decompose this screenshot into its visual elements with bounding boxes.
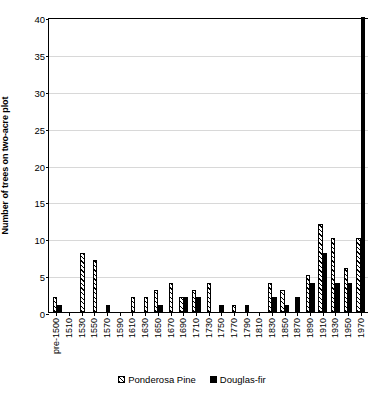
x-axis-tick: 1850	[278, 316, 291, 368]
bar-douglas-fir	[196, 297, 200, 312]
x-axis-tick-label: 1910	[318, 318, 327, 338]
bar-douglas-fir	[361, 17, 365, 312]
bar-ponderosa-pine	[207, 283, 211, 313]
x-axis-tick-mark	[171, 313, 172, 316]
x-axis-tick-label: 1730	[204, 318, 213, 338]
y-axis-tick-label: 25	[1, 124, 45, 135]
chart-legend: Ponderosa PineDouglas-fir	[0, 374, 384, 385]
x-axis-tick-label: 1510	[65, 318, 74, 338]
x-axis-tick: 1670	[164, 316, 177, 368]
y-axis-tick-label: 20	[1, 161, 45, 172]
bar-ponderosa-pine	[80, 253, 84, 312]
legend-label: Douglas-fir	[220, 374, 266, 385]
x-axis-tick-mark	[348, 313, 349, 316]
x-axis-tick-mark	[183, 313, 184, 316]
x-axis-tick: 1890	[304, 316, 317, 368]
x-axis-tick-label: 1930	[331, 318, 340, 338]
y-axis-tick-label: 35	[1, 50, 45, 61]
bar-category-group	[51, 19, 64, 312]
x-axis-tick: 1750	[215, 316, 228, 368]
bar-douglas-fir	[106, 305, 110, 312]
x-axis-tick-mark	[272, 313, 273, 316]
x-axis-tick-label: 1570	[103, 318, 112, 338]
x-axis-tick-mark	[56, 313, 57, 316]
bar-category-group	[329, 19, 342, 312]
bar-category-group	[279, 19, 292, 312]
bar-category-group	[228, 19, 241, 312]
x-axis-tick: 1730	[202, 316, 215, 368]
x-axis-tick-mark	[94, 313, 95, 316]
x-axis-tick-mark	[196, 313, 197, 316]
x-axis-tick: 1530	[75, 316, 88, 368]
bar-category-group	[64, 19, 77, 312]
x-axis-tick-mark	[310, 313, 311, 316]
x-axis-tick: 1590	[113, 316, 126, 368]
x-axis-tick: 1770	[228, 316, 241, 368]
x-axis-tick-label: 1550	[90, 318, 99, 338]
bar-category-group	[266, 19, 279, 312]
x-axis-tick-label: 1610	[128, 318, 137, 338]
x-axis-tick: 1570	[101, 316, 114, 368]
bar-category-group	[127, 19, 140, 312]
bar-ponderosa-pine	[93, 260, 97, 312]
x-axis-tick: 1830	[266, 316, 279, 368]
x-axis-tick-label: 1710	[191, 318, 200, 338]
bar-douglas-fir	[285, 305, 289, 312]
x-axis-tick-mark	[132, 313, 133, 316]
x-axis-tick: pre-1500	[50, 316, 63, 368]
x-axis-tick: 1550	[88, 316, 101, 368]
x-axis-tick-mark	[361, 313, 362, 316]
x-axis-tick: 1790	[240, 316, 253, 368]
solid-black-swatch	[210, 376, 217, 383]
bar-douglas-fir	[348, 283, 352, 313]
bar-category-group	[76, 19, 89, 312]
bar-ponderosa-pine	[232, 305, 236, 312]
bar-chart: Number of trees on two-acre plot 0510152…	[0, 0, 384, 397]
x-axis-tick-mark	[145, 313, 146, 316]
x-axis-tick-mark	[247, 313, 248, 316]
y-axis-tick-mark	[46, 314, 49, 315]
bar-group	[49, 19, 368, 312]
x-axis-tick-mark	[234, 313, 235, 316]
x-axis-tick-label: 1970	[356, 318, 365, 338]
x-axis-tick-label: 1770	[229, 318, 238, 338]
x-axis-tick: 1970	[355, 316, 368, 368]
x-axis-tick: 1910	[316, 316, 329, 368]
bar-douglas-fir	[184, 297, 188, 312]
bar-ponderosa-pine	[131, 297, 135, 312]
x-axis-tick-label: 1690	[179, 318, 188, 338]
y-axis-tick-label: 40	[1, 14, 45, 25]
x-axis-tick-label: 1670	[166, 318, 175, 338]
x-axis-tick-label: 1850	[280, 318, 289, 338]
x-axis-tick-label: 1830	[268, 318, 277, 338]
bar-douglas-fir	[245, 305, 249, 312]
bar-douglas-fir	[272, 297, 276, 312]
x-axis-tick-label: 1870	[293, 318, 302, 338]
x-axis-tick-label: 1590	[115, 318, 124, 338]
bar-category-group	[165, 19, 178, 312]
x-axis-tick-label: 1530	[77, 318, 86, 338]
x-axis-tick-mark	[209, 313, 210, 316]
x-axis-tick-mark	[69, 313, 70, 316]
bar-category-group	[190, 19, 203, 312]
x-axis-tick-label: 1790	[242, 318, 251, 338]
y-axis-tick-label: 15	[1, 198, 45, 209]
x-axis-tick-mark	[285, 313, 286, 316]
bar-category-group	[177, 19, 190, 312]
bar-category-group	[114, 19, 127, 312]
legend-item: Ponderosa Pine	[118, 374, 196, 385]
x-axis-tick-label: 1630	[141, 318, 150, 338]
bar-category-group	[304, 19, 317, 312]
bar-category-group	[253, 19, 266, 312]
x-axis-tick: 1930	[329, 316, 342, 368]
y-axis-tick-label: 0	[1, 309, 45, 320]
bar-douglas-fir	[335, 283, 339, 313]
bar-category-group	[139, 19, 152, 312]
bar-category-group	[291, 19, 304, 312]
bar-category-group	[203, 19, 216, 312]
x-axis-tick: 1810	[253, 316, 266, 368]
legend-label: Ponderosa Pine	[128, 374, 196, 385]
x-axis-tick-label: 1890	[306, 318, 315, 338]
bar-douglas-fir	[158, 305, 162, 312]
plot-area: 0510152025303540	[48, 18, 368, 313]
